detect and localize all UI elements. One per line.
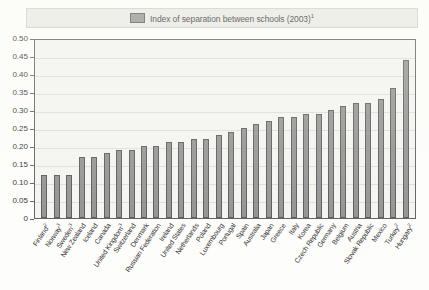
bar [316,114,322,218]
bar [129,150,135,218]
y-axis-tick-label: 0.35 [12,89,28,97]
x-axis-slot: Greece [275,220,288,290]
bar [178,142,184,218]
bar-slot [50,40,62,218]
bar-slot [150,40,162,218]
bar-slot [163,40,175,218]
y-axis-tick-label: 0.25 [12,125,28,133]
bar-slot [188,40,200,218]
bar-slot [100,40,112,218]
bar-slot [225,40,237,218]
x-axis-slot: Hungary2 [400,220,413,290]
bar-slot [213,40,225,218]
bar [54,175,60,218]
bar-slot [125,40,137,218]
bar [41,175,47,218]
x-axis-slot: Slovak Republic [363,220,376,290]
x-axis-slot: Germany [325,220,338,290]
bar [253,124,259,218]
x-axis-slot: Portugal [225,220,238,290]
y-axis-tick-label: 0.20 [12,143,28,151]
bar-slot [262,40,274,218]
bar-slot [75,40,87,218]
legend-label: Index of separation between schools (200… [150,13,314,24]
bar [141,146,147,218]
x-axis-slot: Mexico [375,220,388,290]
x-axis-slot: Turkey2 [388,220,401,290]
bar-slot [337,40,349,218]
bar [191,139,197,218]
bar [153,146,159,218]
x-axis-slot: Japan [263,220,276,290]
x-axis-slot: Luxembourg [212,220,225,290]
bar-slot [275,40,287,218]
bar-slot [300,40,312,218]
bar-slot [375,40,387,218]
bar [378,99,384,218]
bar [166,142,172,218]
bar-slot [400,40,412,218]
chart-legend: Index of separation between schools (200… [26,8,418,28]
bar-slot [175,40,187,218]
y-axis-tick-label: 0.05 [12,197,28,205]
bar [228,132,234,218]
x-axis-slot: Finland2 [37,220,50,290]
bar-slot [362,40,374,218]
bar [79,157,85,218]
bar [91,157,97,218]
x-axis-slot: United Kingdom3 [112,220,125,290]
bar-slot [312,40,324,218]
bar-slot [138,40,150,218]
x-axis-slot: Spain [238,220,251,290]
bar-slot [88,40,100,218]
bar [303,114,309,218]
bar-slot [350,40,362,218]
bar-slot [200,40,212,218]
bar [365,103,371,218]
y-axis-tick-label: 0.50 [12,35,28,43]
bar [266,121,272,218]
bar-slot [238,40,250,218]
y-axis: 0.500.450.400.350.300.250.200.150.100.05… [0,33,34,225]
y-axis-tick-label: 0.40 [12,71,28,79]
bar-slot [38,40,50,218]
bar [291,117,297,218]
bar [328,110,334,218]
bar [216,135,222,218]
x-axis-slot: Netherlands [187,220,200,290]
bar [66,175,72,218]
bar-slot [287,40,299,218]
bar-slot [113,40,125,218]
bar-slot [63,40,75,218]
x-axis-slot: Czech Republic [313,220,326,290]
bar [403,60,409,218]
y-axis-tick-label: 0.15 [12,161,28,169]
bar [340,106,346,218]
y-axis-tick-label: 0.30 [12,107,28,115]
bar [116,150,122,218]
legend-swatch-icon [130,13,145,23]
bar-series [35,40,415,218]
bar [353,103,359,218]
bar-slot [387,40,399,218]
bar [104,153,110,218]
x-axis-slot: Australia [250,220,263,290]
y-axis-tick-label: 0.45 [12,53,28,61]
bar [278,117,284,218]
bar [203,139,209,218]
bar [390,88,396,218]
x-axis-slot: New Zealand [75,220,88,290]
y-axis-tick-label: 0 [24,215,28,223]
bar-slot [325,40,337,218]
bar [241,128,247,218]
bar-slot [250,40,262,218]
plot-area [34,39,416,219]
x-axis: Finland2Norway3Sweden3New ZealandIceland… [34,220,416,290]
x-axis-slot: United States [175,220,188,290]
y-axis-tick-label: 0.10 [12,179,28,187]
